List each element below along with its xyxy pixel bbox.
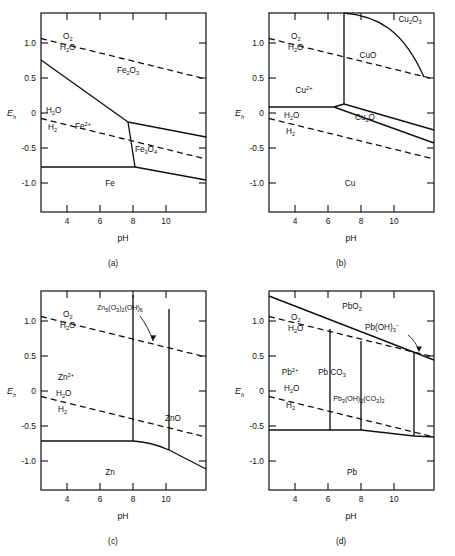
panel-caption: (b) <box>336 258 346 268</box>
panel-d-caption-layer: (d) <box>228 278 455 556</box>
panel-caption: (c) <box>108 536 118 546</box>
panel-c-caption-layer: (c) <box>0 278 227 556</box>
panel-d: 4 6 8 10 1.0 0.5 0 -0.5 -1.0 pH Eh O2 H2… <box>228 278 455 556</box>
panel-a: 4 6 8 10 1.0 0.5 0 -0.5 -1.0 pH Eh O2 H2… <box>0 0 227 278</box>
panel-c: 4 6 8 10 1.0 0.5 0 -0.5 -1.0 pH Eh O2 H2… <box>0 278 227 556</box>
panel-b-caption-layer: (b) <box>228 0 455 278</box>
panel-caption: (a) <box>108 258 118 268</box>
pourbaix-diagram-figure: 4 6 8 10 1.0 0.5 0 -0.5 -1.0 pH Eh O2 H2… <box>0 0 455 556</box>
panel-a-caption-layer: (a) <box>0 0 227 278</box>
panel-b: 4 6 8 10 1.0 0.5 0 -0.5 -1.0 pH Eh O2 H2… <box>228 0 455 278</box>
panel-caption: (d) <box>336 536 346 546</box>
